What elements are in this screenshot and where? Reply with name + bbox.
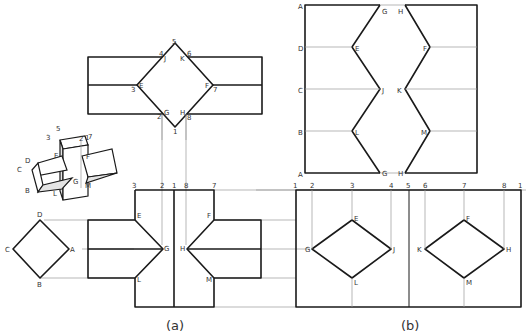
svg-text:H: H bbox=[398, 170, 403, 178]
svg-text:D: D bbox=[25, 157, 30, 165]
svg-text:B: B bbox=[37, 281, 42, 289]
svg-text:3: 3 bbox=[131, 86, 135, 94]
svg-text:C: C bbox=[298, 87, 303, 95]
svg-text:G: G bbox=[164, 109, 169, 117]
svg-text:G: G bbox=[73, 178, 78, 186]
svg-text:C: C bbox=[17, 166, 22, 174]
svg-text:1: 1 bbox=[293, 182, 297, 190]
svg-text:D: D bbox=[37, 211, 42, 219]
svg-text:1: 1 bbox=[172, 182, 176, 190]
svg-text:C: C bbox=[5, 246, 10, 254]
svg-text:2: 2 bbox=[79, 135, 83, 143]
svg-text:E: E bbox=[139, 82, 143, 90]
caption-a: (a) bbox=[166, 318, 184, 333]
front-view bbox=[88, 190, 261, 307]
svg-text:3: 3 bbox=[132, 182, 136, 190]
svg-text:M: M bbox=[421, 129, 427, 137]
svg-text:1: 1 bbox=[173, 128, 177, 136]
svg-text:5: 5 bbox=[406, 182, 410, 190]
svg-text:3: 3 bbox=[350, 182, 354, 190]
top-view bbox=[88, 43, 262, 140]
lower-development bbox=[296, 190, 521, 307]
svg-text:B: B bbox=[25, 187, 30, 195]
svg-text:M: M bbox=[206, 276, 212, 284]
svg-text:7: 7 bbox=[212, 182, 216, 190]
svg-text:A: A bbox=[70, 246, 75, 254]
svg-text:E: E bbox=[137, 212, 141, 220]
svg-text:A: A bbox=[298, 3, 303, 11]
svg-text:E: E bbox=[54, 152, 58, 160]
svg-text:G: G bbox=[382, 8, 387, 16]
svg-text:L: L bbox=[53, 190, 57, 198]
svg-text:8: 8 bbox=[187, 114, 191, 122]
svg-text:7: 7 bbox=[213, 86, 217, 94]
caption-b: (b) bbox=[401, 318, 419, 333]
svg-text:5: 5 bbox=[56, 125, 60, 133]
svg-text:H: H bbox=[506, 246, 511, 254]
svg-text:G: G bbox=[305, 246, 310, 254]
svg-text:L: L bbox=[355, 129, 359, 137]
svg-text:K: K bbox=[180, 55, 185, 63]
svg-text:H: H bbox=[180, 245, 185, 253]
svg-text:F: F bbox=[466, 215, 470, 223]
svg-text:M: M bbox=[466, 279, 472, 287]
svg-text:1: 1 bbox=[518, 182, 522, 190]
intersecting-prisms-drawing: 5 4 J K 6 3 E F 7 2 G H 8 1 5 3 2 1 7 E … bbox=[0, 0, 526, 335]
svg-text:7: 7 bbox=[462, 182, 466, 190]
svg-text:E: E bbox=[354, 215, 358, 223]
svg-text:G: G bbox=[164, 245, 169, 253]
svg-text:6: 6 bbox=[423, 182, 428, 190]
side-view-square bbox=[13, 220, 69, 278]
svg-text:M: M bbox=[85, 182, 91, 190]
svg-text:A: A bbox=[298, 171, 303, 179]
svg-text:2: 2 bbox=[160, 182, 164, 190]
upper-development bbox=[305, 5, 477, 173]
svg-text:6: 6 bbox=[187, 50, 192, 58]
svg-text:J: J bbox=[392, 246, 395, 254]
svg-text:8: 8 bbox=[184, 182, 188, 190]
svg-text:2: 2 bbox=[157, 113, 161, 121]
svg-text:7: 7 bbox=[88, 133, 92, 141]
svg-text:H: H bbox=[398, 8, 403, 16]
svg-text:F: F bbox=[207, 212, 211, 220]
svg-text:H: H bbox=[180, 109, 185, 117]
pictorial-sketch bbox=[32, 136, 117, 200]
svg-text:E: E bbox=[355, 45, 359, 53]
svg-text:F: F bbox=[86, 153, 90, 161]
lower-development-labels: 1 2 3 4 5 6 7 8 1 E G J L F K H M bbox=[293, 182, 522, 287]
svg-text:B: B bbox=[298, 129, 303, 137]
svg-text:8: 8 bbox=[502, 182, 506, 190]
svg-text:D: D bbox=[298, 45, 303, 53]
svg-text:K: K bbox=[397, 87, 402, 95]
svg-text:G: G bbox=[382, 170, 387, 178]
svg-text:L: L bbox=[354, 279, 358, 287]
svg-text:4: 4 bbox=[389, 182, 394, 190]
svg-text:3: 3 bbox=[46, 134, 50, 142]
svg-text:F: F bbox=[205, 82, 209, 90]
svg-text:J: J bbox=[381, 87, 384, 95]
svg-text:5: 5 bbox=[172, 38, 176, 46]
svg-text:J: J bbox=[163, 55, 166, 63]
svg-text:2: 2 bbox=[310, 182, 314, 190]
upper-development-labels: A D C B A G E J L G H F K M H bbox=[298, 3, 427, 179]
svg-text:L: L bbox=[137, 276, 141, 284]
svg-text:K: K bbox=[417, 246, 422, 254]
svg-text:F: F bbox=[423, 45, 427, 53]
